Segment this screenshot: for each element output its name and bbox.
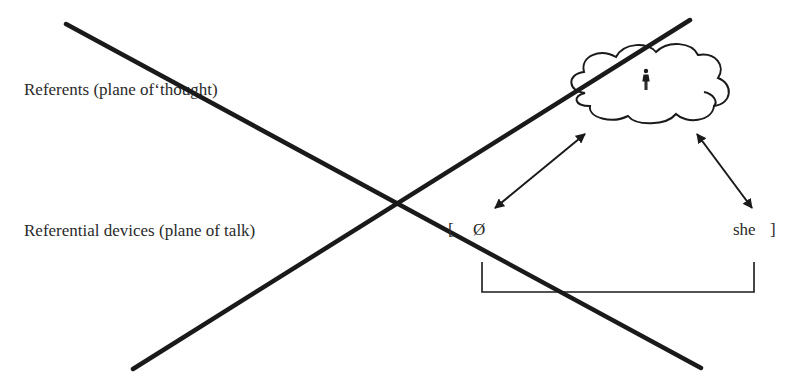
- zero-anaphor-token: Ø: [473, 220, 485, 240]
- reference-arrow-she: [697, 134, 752, 208]
- thought-cloud-icon: [571, 44, 728, 123]
- open-bracket: [: [448, 220, 454, 240]
- pronoun-token: she: [733, 220, 756, 240]
- reference-arrow-zero: [495, 134, 585, 208]
- diagram-canvas: [0, 0, 789, 390]
- coreference-bracket: [482, 262, 754, 292]
- close-bracket: ]: [770, 220, 776, 240]
